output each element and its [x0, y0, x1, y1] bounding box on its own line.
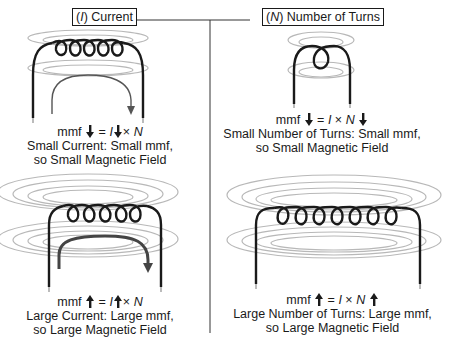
turns-symbol: N	[270, 10, 279, 24]
mmf-label: mmf	[57, 295, 81, 309]
coil-wire	[256, 207, 420, 284]
current-variable: I	[109, 295, 112, 309]
turns-header: (N) Number of Turns	[262, 8, 384, 26]
formula: mmf = I × N	[220, 293, 445, 307]
small-current-caption: mmf = I× N Small Current: Small mmf, so …	[0, 125, 200, 167]
arrow-up-icon	[86, 295, 94, 308]
mmf-label: mmf	[276, 113, 300, 127]
caption-line-2: so Small Magnetic Field	[0, 153, 200, 167]
caption-line-1: Small Current: Small mmf,	[0, 139, 200, 153]
arrow-down-icon	[86, 125, 94, 138]
equals-sign: =	[99, 295, 106, 309]
large-turns-caption: mmf = I × N Large Number of Turns: Large…	[220, 293, 445, 335]
wire-ends	[49, 287, 161, 292]
caption-line-1: Large Number of Turns: Large mmf,	[220, 307, 445, 321]
arrow-down-icon	[359, 113, 367, 126]
magnetic-field-rings	[28, 30, 148, 76]
current-variable: I	[338, 293, 341, 307]
arrow-up-icon	[315, 293, 323, 306]
current-flow-arrow-large	[59, 236, 153, 273]
large-current-caption: mmf = I× N Large Current: Large mmf, so …	[0, 295, 200, 337]
current-variable: I	[328, 113, 331, 127]
arrow-down-icon	[114, 125, 122, 138]
current-symbol: I	[80, 10, 83, 24]
wire-ends	[33, 118, 143, 123]
turns-variable: N	[134, 295, 143, 309]
equals-sign: =	[317, 113, 324, 127]
caption-line-2: so Large Magnetic Field	[0, 323, 200, 337]
turns-variable: N	[346, 113, 355, 127]
large-current-coil-illustration	[0, 174, 178, 292]
magnetic-field-rings	[227, 175, 441, 258]
large-turns-coil-illustration	[227, 175, 441, 289]
caption-line-2: so Small Magnetic Field	[212, 141, 432, 155]
formula: mmf = I× N	[0, 295, 200, 309]
times-sign: ×	[335, 113, 342, 127]
current-header-label: Current	[91, 10, 133, 24]
turns-header-label: Number of Turns	[287, 10, 380, 24]
formula: mmf = I × N	[212, 113, 432, 127]
caption-line-1: Large Current: Large mmf,	[0, 309, 200, 323]
current-variable: I	[109, 125, 112, 139]
magnetic-field-rings	[0, 174, 178, 257]
caption-line-2: so Large Magnetic Field	[220, 321, 445, 335]
current-flow-arrow-small	[52, 75, 135, 115]
arrow-down-icon	[305, 113, 313, 126]
arrow-up-icon	[114, 295, 122, 308]
wire-ends	[256, 284, 420, 289]
current-header: (I) Current	[72, 8, 137, 26]
turns-variable: N	[356, 293, 365, 307]
turns-variable: N	[134, 125, 143, 139]
small-current-coil-illustration	[28, 30, 148, 123]
times-sign: ×	[345, 293, 352, 307]
times-sign: ×	[123, 125, 130, 139]
small-turns-coil-illustration	[288, 32, 354, 108]
equals-sign: =	[328, 293, 335, 307]
mmf-label: mmf	[286, 293, 310, 307]
formula: mmf = I× N	[0, 125, 200, 139]
times-sign: ×	[123, 295, 130, 309]
wire-ends	[294, 104, 350, 108]
coil-wire	[33, 40, 143, 118]
small-turns-caption: mmf = I × N Small Number of Turns: Small…	[212, 113, 432, 155]
caption-line-1: Small Number of Turns: Small mmf,	[212, 127, 432, 141]
mmf-label: mmf	[57, 125, 81, 139]
equals-sign: =	[99, 125, 106, 139]
arrow-up-icon	[370, 293, 378, 306]
